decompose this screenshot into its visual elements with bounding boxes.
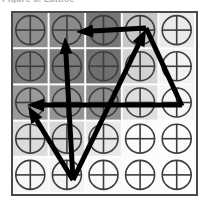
crosshair-circle-icon	[126, 124, 155, 153]
vector-shaft	[88, 28, 146, 31]
figure-caption-fragment: Figure 3. Lattice	[2, 0, 74, 3]
crosshair-circle-icon	[16, 160, 45, 189]
crosshair-circle-icon	[89, 160, 118, 189]
crosshair-circle-icon	[16, 16, 45, 45]
lattice-svg	[11, 11, 198, 196]
crosshair-circle-icon	[16, 52, 45, 81]
figure-root: Figure 3. Lattice	[0, 0, 209, 208]
crosshair-circle-icon	[162, 160, 191, 189]
crosshair-circle-icon	[52, 16, 81, 45]
crosshair-circle-icon	[89, 52, 118, 81]
crosshair-circle-icon	[162, 124, 191, 153]
crosshair-circle-icon	[126, 160, 155, 189]
crosshair-circle-icon	[162, 16, 191, 45]
lattice-figure	[11, 11, 198, 196]
